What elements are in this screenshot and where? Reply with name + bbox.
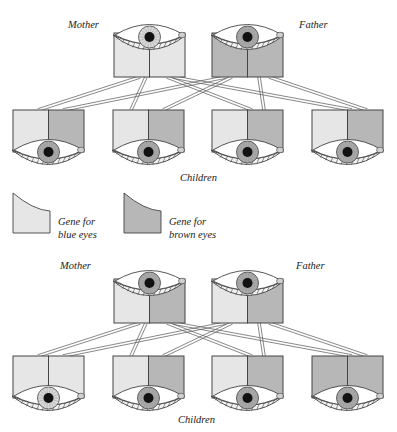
tear-duct (277, 278, 284, 284)
inheritance-line (269, 78, 367, 111)
bottom-mother-label: Mother (60, 259, 91, 272)
tear-duct (78, 393, 85, 399)
tear-duct (277, 393, 284, 399)
pupil (243, 147, 253, 157)
pupil (145, 32, 155, 42)
inheritance-line (63, 76, 226, 109)
top-father-label: Father (299, 18, 328, 31)
inheritance-line (269, 324, 367, 357)
child-2 (112, 110, 185, 165)
inheritance-line (260, 323, 265, 356)
inheritance-line (258, 77, 263, 110)
child-3 (211, 110, 284, 165)
legend-brown-gene-swatch (124, 193, 161, 233)
pupil (44, 147, 54, 157)
mother (113, 271, 186, 324)
inheritance-line (167, 78, 252, 111)
tear-duct (179, 32, 186, 38)
pupil (343, 393, 353, 403)
eye-color-inheritance-diagram: Mother Father Children Gene for blue eye… (0, 0, 397, 432)
inheritance-line (130, 322, 145, 355)
tear-duct (277, 32, 284, 38)
child-2 (112, 356, 185, 411)
pupil (144, 147, 154, 157)
legend-brown-line1: Gene for (169, 215, 206, 228)
inheritance-line (269, 322, 367, 355)
bottom-children-label: Children (178, 413, 215, 426)
tear-duct (178, 393, 185, 399)
legend-blue-line1: Gene for (58, 215, 95, 228)
pupil (145, 278, 155, 288)
pupil (243, 32, 253, 42)
child-4 (311, 110, 384, 165)
mother (113, 25, 186, 78)
inheritance-line (167, 76, 252, 109)
father (211, 25, 284, 78)
inheritance-line (167, 324, 252, 357)
inheritance-line (269, 76, 367, 109)
top-children-label: Children (180, 171, 217, 184)
child-4 (311, 356, 384, 411)
inheritance-line (258, 323, 263, 356)
inheritance-line (260, 77, 265, 110)
pupil (343, 147, 353, 157)
inheritance-line (130, 76, 145, 109)
inheritance-line (167, 322, 252, 355)
father (211, 271, 284, 324)
tear-duct (377, 393, 384, 399)
tear-duct (277, 147, 284, 153)
child-3 (211, 356, 284, 411)
tear-duct (377, 147, 384, 153)
child-1 (12, 356, 85, 411)
pupil (243, 393, 253, 403)
legend-brown-line2: brown eyes (169, 228, 216, 241)
pupil (243, 278, 253, 288)
tear-duct (179, 278, 186, 284)
inheritance-line (63, 322, 226, 355)
bottom-father-label: Father (296, 259, 325, 272)
tear-duct (78, 147, 85, 153)
top-mother-label: Mother (68, 18, 99, 31)
pupil (144, 393, 154, 403)
tear-duct (178, 147, 185, 153)
legend-blue-line2: blue eyes (58, 228, 97, 241)
legend-blue-gene-swatch (13, 193, 50, 233)
child-1 (12, 110, 85, 165)
pupil (44, 393, 54, 403)
